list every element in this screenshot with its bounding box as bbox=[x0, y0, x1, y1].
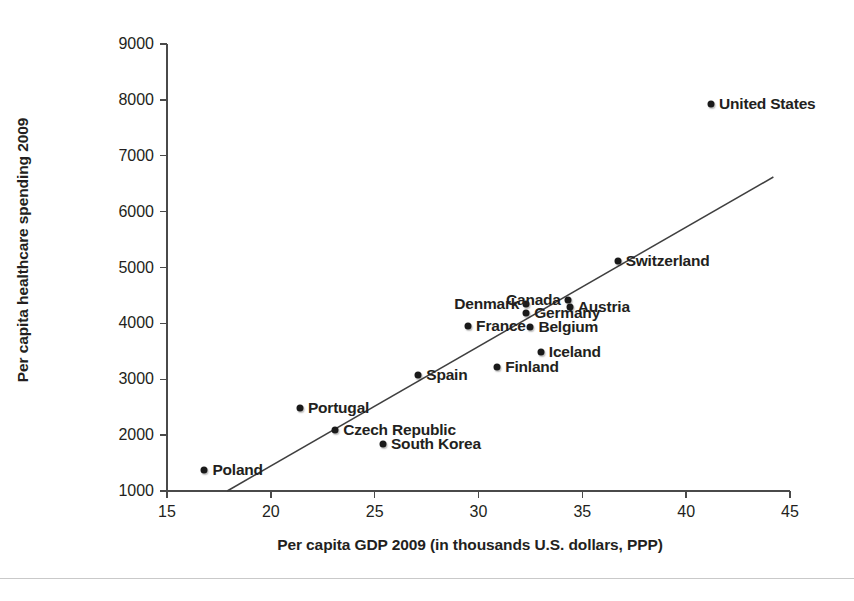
data-point[interactable] bbox=[523, 309, 530, 316]
data-point[interactable] bbox=[296, 404, 303, 411]
x-axis-tick-label: 45 bbox=[781, 503, 799, 521]
y-axis-tick-label: 4000 bbox=[80, 314, 154, 332]
data-point[interactable] bbox=[415, 372, 422, 379]
data-point[interactable] bbox=[494, 363, 501, 370]
data-point-label: Canada bbox=[506, 291, 561, 309]
x-axis-tick-label: 40 bbox=[677, 503, 695, 521]
y-axis-tick-label: 9000 bbox=[80, 35, 154, 53]
y-axis-tick-label: 3000 bbox=[80, 370, 154, 388]
y-axis-tick-label: 5000 bbox=[80, 259, 154, 277]
bottom-divider bbox=[0, 578, 854, 579]
y-axis-tick-label: 7000 bbox=[80, 147, 154, 165]
x-axis-tick-label: 30 bbox=[470, 503, 488, 521]
data-point[interactable] bbox=[465, 322, 472, 329]
data-point-label: Poland bbox=[212, 461, 262, 479]
x-axis-tick-label: 25 bbox=[366, 503, 384, 521]
data-point-label: United States bbox=[719, 95, 815, 113]
data-point-label: France bbox=[476, 317, 526, 335]
data-point-label: Belgium bbox=[538, 318, 598, 336]
y-axis-tick-label: 1000 bbox=[80, 482, 154, 500]
y-axis-tick-label: 2000 bbox=[80, 426, 154, 444]
x-axis-tick-label: 35 bbox=[573, 503, 591, 521]
data-point-label: South Korea bbox=[391, 435, 481, 453]
data-point[interactable] bbox=[537, 349, 544, 356]
data-point[interactable] bbox=[614, 258, 621, 265]
x-axis-tick-label: 20 bbox=[262, 503, 280, 521]
data-point[interactable] bbox=[332, 426, 339, 433]
data-point[interactable] bbox=[564, 296, 571, 303]
scatter-plot-figure: Per capita healthcare spending 2009 Per … bbox=[0, 0, 854, 601]
data-point-label: Switzerland bbox=[626, 252, 710, 270]
data-point[interactable] bbox=[566, 304, 573, 311]
data-point-label: Austria bbox=[578, 298, 630, 316]
y-axis-tick-label: 6000 bbox=[80, 203, 154, 221]
y-axis-tick-label: 8000 bbox=[80, 91, 154, 109]
data-point[interactable] bbox=[527, 324, 534, 331]
data-point-label: Iceland bbox=[549, 343, 601, 361]
data-point[interactable] bbox=[201, 466, 208, 473]
x-axis-tick-label: 15 bbox=[158, 503, 176, 521]
data-point[interactable] bbox=[379, 440, 386, 447]
data-point-label: Spain bbox=[426, 366, 467, 384]
data-point-label: Portugal bbox=[308, 399, 369, 417]
data-point[interactable] bbox=[708, 101, 715, 108]
